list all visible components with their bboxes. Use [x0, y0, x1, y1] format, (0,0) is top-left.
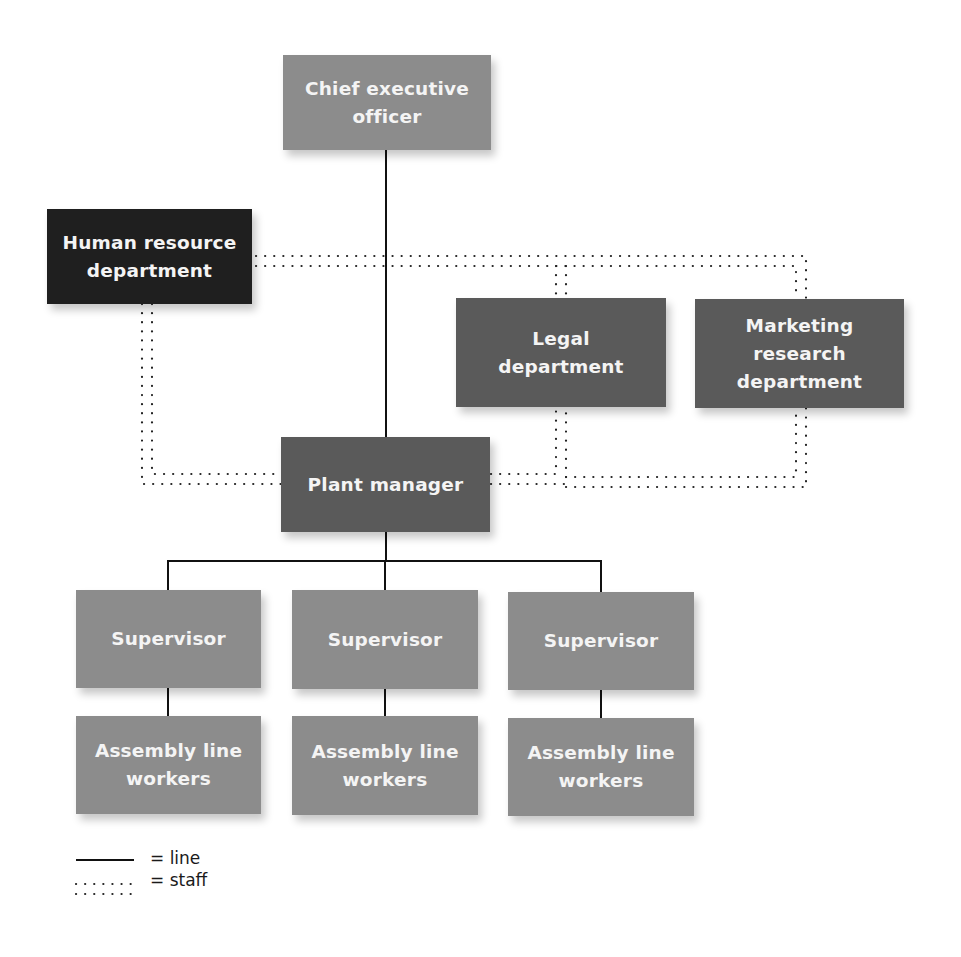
marketing-research-department-label: Marketing research department — [737, 312, 862, 396]
supervisor-box-1: Supervisor — [76, 590, 261, 688]
ceo-label: Chief executive officer — [305, 75, 469, 131]
legend-staff-row: = staff — [142, 870, 207, 890]
plant-manager-box: Plant manager — [281, 437, 490, 532]
plant-manager-label: Plant manager — [308, 471, 464, 499]
legal-department-box: Legal department — [456, 298, 666, 407]
workers-box-3: Assembly line workers — [508, 718, 694, 816]
legend-staff-label: = staff — [150, 870, 207, 890]
legend-line-row: = line — [142, 848, 200, 868]
supervisor-label-3: Supervisor — [544, 627, 659, 655]
ceo-box: Chief executive officer — [283, 55, 491, 150]
hr-department-box: Human resource department — [47, 209, 252, 304]
supervisor-label-1: Supervisor — [111, 625, 226, 653]
workers-label-2: Assembly line workers — [311, 738, 458, 794]
hr-department-label: Human resource department — [62, 229, 236, 285]
supervisor-box-3: Supervisor — [508, 592, 694, 690]
supervisor-box-2: Supervisor — [292, 590, 478, 689]
marketing-research-department-box: Marketing research department — [695, 299, 904, 408]
legal-department-label: Legal department — [498, 325, 623, 381]
legend-line-label: = line — [150, 848, 200, 868]
workers-box-1: Assembly line workers — [76, 716, 261, 814]
workers-box-2: Assembly line workers — [292, 716, 478, 815]
supervisor-label-2: Supervisor — [328, 626, 443, 654]
workers-label-3: Assembly line workers — [527, 739, 674, 795]
workers-label-1: Assembly line workers — [95, 737, 242, 793]
